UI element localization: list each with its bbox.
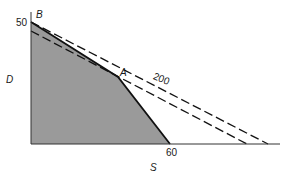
point-b-label: B — [36, 9, 43, 20]
x-tick-60: 60 — [166, 147, 178, 158]
iso-200-label: 200 — [152, 70, 172, 87]
point-a-label: A — [119, 67, 127, 78]
x-axis-label: S — [150, 162, 157, 173]
production-frontier-chart: 50 B A 200 D 60 S — [0, 0, 286, 178]
y-tick-50: 50 — [16, 17, 28, 28]
y-axis-label: D — [6, 74, 13, 85]
